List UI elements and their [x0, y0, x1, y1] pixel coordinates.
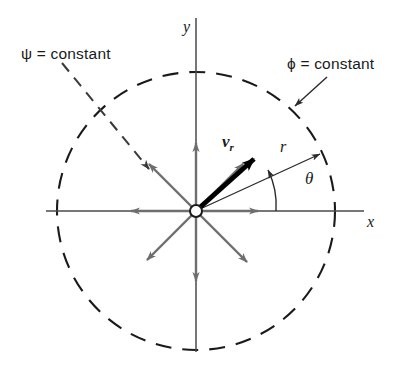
figure-container: ψ = constant ϕ = constant y x r θ vr — [0, 0, 402, 378]
radial-arrow-135deg — [149, 164, 196, 211]
origin-marker — [190, 205, 202, 217]
x-axis-label: x — [367, 214, 374, 230]
vr-symbol: v — [222, 132, 230, 151]
psi-constant-leader-arrow — [62, 63, 149, 169]
r-vector-line — [198, 154, 320, 210]
y-axis-label: y — [183, 19, 190, 35]
vr-subscript: r — [230, 141, 234, 153]
phi-constant-leader-arrow — [295, 77, 327, 106]
theta-angle-label: θ — [305, 170, 313, 187]
psi-constant-label: ψ = constant — [21, 46, 111, 62]
radial-arrow-315deg — [196, 211, 247, 262]
vr-velocity-label: vr — [222, 133, 234, 153]
vr-velocity-vector — [197, 159, 254, 210]
radius-label: r — [280, 139, 286, 155]
radial-arrow-225deg — [147, 211, 196, 260]
phi-constant-label: ϕ = constant — [287, 56, 374, 72]
